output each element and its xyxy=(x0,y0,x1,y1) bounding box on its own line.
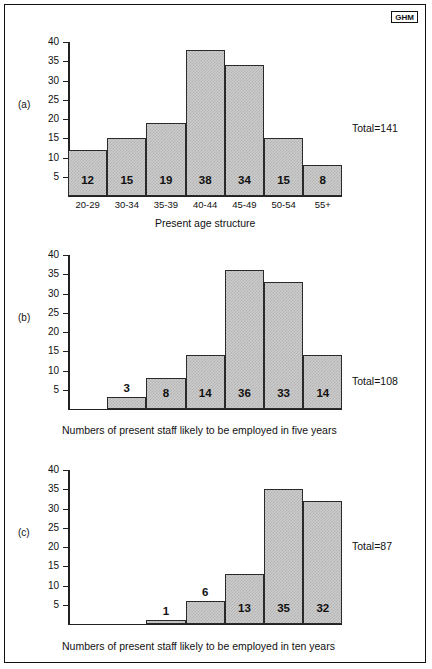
y-tick-label-a-20: 20 xyxy=(37,114,59,124)
y-tick-label-b-35: 35 xyxy=(37,269,59,279)
chart-caption-c: Numbers of present staff likely to be em… xyxy=(62,640,335,652)
bar xyxy=(186,355,225,409)
bar-value-label: 12 xyxy=(68,174,107,186)
y-axis-b xyxy=(68,255,70,410)
y-axis-c xyxy=(68,470,70,625)
bar xyxy=(264,138,303,196)
y-tick-b-35 xyxy=(63,274,68,275)
y-tick-b-40 xyxy=(63,255,68,256)
total-label-c: Total=87 xyxy=(352,540,392,552)
bar-value-label: 14 xyxy=(303,387,342,399)
y-tick-label-c-10: 10 xyxy=(37,581,59,591)
x-axis-a xyxy=(68,196,342,197)
y-tick-label-b-5: 5 xyxy=(37,385,59,395)
y-tick-label-a-5: 5 xyxy=(37,172,59,182)
y-tick-label-c-30: 30 xyxy=(37,504,59,514)
x-category-label: 55+ xyxy=(303,200,342,210)
bar-value-label: 33 xyxy=(264,387,303,399)
plot-area-b: 4035302520151053814363314 xyxy=(68,255,342,409)
y-tick-label-b-25: 25 xyxy=(37,308,59,318)
x-axis-c xyxy=(68,624,342,625)
y-tick-c-25 xyxy=(63,528,68,529)
x-category-label: 50-54 xyxy=(264,200,303,210)
bar-value-label: 13 xyxy=(225,602,264,614)
y-tick-b-5 xyxy=(63,390,68,391)
y-tick-b-15 xyxy=(63,351,68,352)
total-label-a: Total=141 xyxy=(352,122,398,134)
y-tick-label-a-25: 25 xyxy=(37,95,59,105)
bar-value-label: 15 xyxy=(107,174,146,186)
y-tick-a-15 xyxy=(63,138,68,139)
y-tick-c-20 xyxy=(63,547,68,548)
bar-value-label: 34 xyxy=(225,174,264,186)
y-tick-label-c-35: 35 xyxy=(37,484,59,494)
y-tick-label-b-10: 10 xyxy=(37,366,59,376)
y-tick-label-a-30: 30 xyxy=(37,76,59,86)
panel-letter-c: (c) xyxy=(18,527,30,538)
y-tick-label-b-15: 15 xyxy=(37,346,59,356)
y-tick-label-b-40: 40 xyxy=(37,250,59,260)
y-tick-label-b-30: 30 xyxy=(37,289,59,299)
bar-value-label: 6 xyxy=(186,586,225,598)
bar-value-label: 35 xyxy=(264,602,303,614)
x-category-label: 30-34 xyxy=(107,200,146,210)
ghm-logo-text: GHM xyxy=(395,13,414,22)
chart-caption-b: Numbers of present staff likely to be em… xyxy=(62,424,337,436)
plot-area-a: 4035302520151051215193834158 xyxy=(68,42,342,196)
y-tick-a-30 xyxy=(63,81,68,82)
bar-value-label: 14 xyxy=(186,387,225,399)
y-tick-label-a-35: 35 xyxy=(37,56,59,66)
y-tick-c-15 xyxy=(63,566,68,567)
bar-value-label: 19 xyxy=(146,174,185,186)
y-tick-a-35 xyxy=(63,61,68,62)
plot-area-c: 40353025201510516133532 xyxy=(68,470,342,624)
panel-letter-b: (b) xyxy=(18,312,30,323)
x-category-label: 20-29 xyxy=(68,200,107,210)
ghm-logo: GHM xyxy=(391,11,418,23)
bar xyxy=(146,620,185,624)
y-tick-label-c-15: 15 xyxy=(37,561,59,571)
bar-value-label: 36 xyxy=(225,387,264,399)
y-tick-label-a-40: 40 xyxy=(37,37,59,47)
y-tick-label-c-5: 5 xyxy=(37,600,59,610)
bar xyxy=(68,150,107,196)
bar-value-label: 8 xyxy=(146,387,185,399)
y-tick-b-30 xyxy=(63,294,68,295)
total-label-b: Total=108 xyxy=(352,375,398,387)
x-category-label: 45-49 xyxy=(225,200,264,210)
bar xyxy=(186,601,225,624)
y-tick-label-c-40: 40 xyxy=(37,465,59,475)
bar-value-label: 38 xyxy=(186,174,225,186)
y-tick-label-b-20: 20 xyxy=(37,327,59,337)
y-tick-label-a-10: 10 xyxy=(37,153,59,163)
y-tick-b-10 xyxy=(63,371,68,372)
x-category-label: 35-39 xyxy=(146,200,185,210)
bar xyxy=(107,138,146,196)
bar-value-label: 1 xyxy=(146,605,185,617)
y-tick-b-20 xyxy=(63,332,68,333)
y-tick-a-25 xyxy=(63,100,68,101)
y-tick-c-5 xyxy=(63,605,68,606)
y-tick-c-35 xyxy=(63,489,68,490)
bar-value-label: 3 xyxy=(107,382,146,394)
y-tick-b-25 xyxy=(63,313,68,314)
bar xyxy=(225,574,264,624)
x-axis-b xyxy=(68,409,342,410)
y-tick-label-a-15: 15 xyxy=(37,133,59,143)
y-tick-c-40 xyxy=(63,470,68,471)
bar-value-label: 8 xyxy=(303,174,342,186)
y-tick-label-c-20: 20 xyxy=(37,542,59,552)
y-tick-c-30 xyxy=(63,509,68,510)
y-tick-c-10 xyxy=(63,586,68,587)
bar-value-label: 32 xyxy=(303,602,342,614)
x-axis-title-a: Present age structure xyxy=(68,217,342,229)
bar-value-label: 15 xyxy=(264,174,303,186)
bar xyxy=(107,397,146,409)
y-tick-a-40 xyxy=(63,42,68,43)
y-tick-label-c-25: 25 xyxy=(37,523,59,533)
panel-letter-a: (a) xyxy=(18,99,30,110)
x-category-label: 40-44 xyxy=(186,200,225,210)
bar xyxy=(303,355,342,409)
y-tick-a-20 xyxy=(63,119,68,120)
